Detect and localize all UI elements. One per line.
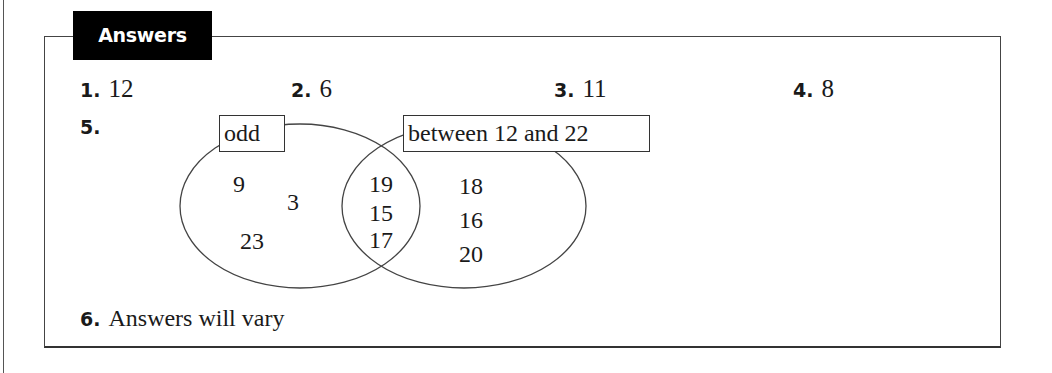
venn-value: 18 [459, 174, 483, 198]
answer-number: 6. [80, 308, 100, 330]
venn-value: 9 [233, 172, 245, 196]
venn-value: 19 [369, 172, 393, 196]
between-label: between 12 and 22 [403, 115, 650, 152]
venn-value: 16 [459, 208, 483, 232]
venn-value: 17 [369, 228, 393, 252]
venn-value: 3 [287, 190, 299, 214]
venn-value: 15 [369, 201, 393, 225]
odd-label: odd [219, 115, 285, 152]
venn-value: 23 [240, 229, 264, 253]
venn-value: 20 [459, 242, 483, 266]
answer-6: 6.Answers will vary [80, 306, 284, 330]
answer-value: Answers will vary [108, 305, 284, 331]
